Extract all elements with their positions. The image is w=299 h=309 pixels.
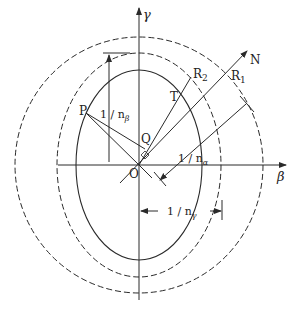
point-r2-label: R2 [193,67,208,83]
point-t-label: T [170,90,178,104]
indicatrix-diagram: γ β O P Q T N R2 R1 1 / nβ 1 / nα 1 / nγ [0,0,299,309]
gamma-axis-label: γ [143,7,151,22]
point-r1-label: R1 [231,69,246,85]
point-n-label: N [250,53,261,67]
n-alpha-label: 1 / nα [178,152,209,167]
n-alpha-tick-end [240,96,254,112]
perpendicular-stub [139,165,152,178]
n-alpha-tick-start [154,172,166,186]
point-p-label: P [79,104,87,118]
beta-axis-label: β [276,169,285,184]
point-q-label: Q [141,132,151,146]
n-beta-label: 1 / nβ [100,108,130,123]
origin-label: O [129,167,139,181]
n-alpha-dimension-line [160,104,246,180]
n-gamma-label: 1 / nγ [167,205,197,220]
